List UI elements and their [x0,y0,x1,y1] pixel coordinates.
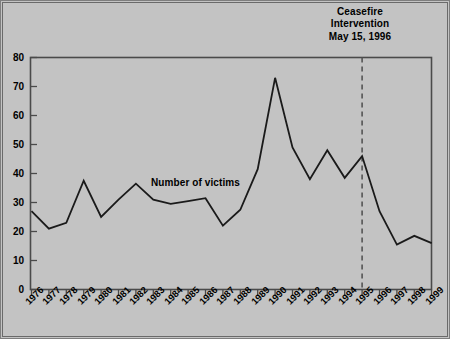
y-tick-label: 60 [4,110,24,121]
y-axis-ticks [31,58,38,290]
y-tick-label: 20 [4,226,24,237]
y-tick-label: 0 [4,284,24,295]
y-tick-label: 30 [4,197,24,208]
plot-axes [31,58,432,290]
y-tick-label: 70 [4,81,24,92]
y-tick-label: 40 [4,168,24,179]
figure-frame: 80 70 60 50 40 30 20 10 0 19761977197819… [2,2,448,337]
series-inline-label: Number of victims [151,177,240,188]
victims-data-line [32,78,432,245]
annotation-line-2: Intervention [285,18,435,30]
y-tick-label: 50 [4,139,24,150]
y-tick-label: 10 [4,255,24,266]
chart-screenshot: 80 70 60 50 40 30 20 10 0 19761977197819… [0,0,450,339]
annotation-line-3: May 15, 1996 [285,31,435,43]
annotation-line-1: Ceasefire [285,6,435,18]
ceasefire-annotation: Ceasefire Intervention May 15, 1996 [285,6,435,43]
y-tick-label: 80 [4,52,24,63]
